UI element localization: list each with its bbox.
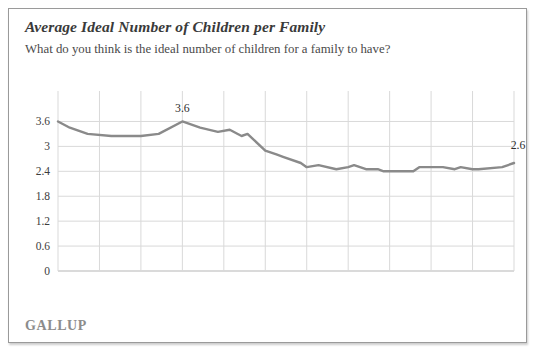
chart-plot-area: 00.61.21.82.433.6 1936194319501957196419… [9,67,526,282]
y-axis-tick-label: 0 [44,265,50,277]
y-axis-tick-label: 3.6 [36,115,51,127]
page-title: Average Ideal Number of Children per Fam… [25,18,325,36]
chart-subtitle: What do you think is the ideal number of… [25,42,390,57]
y-axis-tick-label: 0.6 [36,240,51,252]
y-axis-tick-label: 2.4 [36,165,51,177]
line-chart-svg: 00.61.21.82.433.6 1936194319501957196419… [9,67,526,282]
y-axis-tick-labels: 00.61.21.82.433.6 [36,115,51,277]
gallup-logo: GALLUP [25,318,87,334]
data-label: 3.6 [175,101,190,115]
y-axis-tick-label: 3 [44,140,50,152]
horizontal-gridlines [58,121,514,271]
chart-card: Average Ideal Number of Children per Fam… [8,8,527,343]
data-label: 2.6 [511,138,526,152]
vertical-gridlines [58,91,514,271]
y-axis-tick-label: 1.2 [36,215,51,227]
y-axis-tick-label: 1.8 [36,190,51,202]
